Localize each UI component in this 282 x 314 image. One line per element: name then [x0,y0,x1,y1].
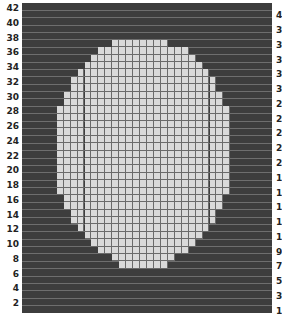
filled-stitch-cell [168,239,175,246]
filled-stitch-cell [64,165,71,172]
filled-stitch-cell [147,165,154,172]
filled-stitch-cell [105,121,112,128]
filled-stitch-cell [203,114,210,121]
filled-stitch-cell [140,188,147,195]
filled-stitch-cell [203,195,210,202]
filled-stitch-cell [57,114,64,121]
filled-stitch-cell [168,55,175,62]
filled-stitch-cell [126,158,133,165]
filled-stitch-cell [223,165,230,172]
filled-stitch-cell [175,106,182,113]
filled-stitch-cell [133,165,140,172]
filled-stitch-cell [210,173,217,180]
filled-stitch-cell [210,77,217,84]
filled-stitch-cell [168,158,175,165]
filled-stitch-cell [182,239,189,246]
filled-stitch-cell [91,92,98,99]
filled-stitch-cell [140,136,147,143]
filled-stitch-cell [98,69,105,76]
filled-stitch-cell [140,40,147,47]
filled-stitch-cell [140,165,147,172]
filled-stitch-cell [168,224,175,231]
filled-stitch-cell [133,114,140,121]
filled-stitch-cell [98,77,105,84]
filled-stitch-cell [147,128,154,135]
filled-stitch-cell [140,261,147,268]
filled-stitch-cell [126,55,133,62]
filled-stitch-cell [182,143,189,150]
left-row-label: 8 [2,254,19,264]
filled-stitch-cell [126,84,133,91]
filled-stitch-cell [168,210,175,217]
filled-stitch-cell [85,188,92,195]
filled-stitch-cell [161,247,168,254]
filled-stitch-cell [98,232,105,239]
filled-stitch-cell [105,92,112,99]
grid-row-line [22,10,272,11]
filled-stitch-cell [161,224,168,231]
filled-stitch-cell [189,92,196,99]
filled-stitch-cell [112,224,119,231]
filled-stitch-cell [210,106,217,113]
filled-stitch-cell [154,261,161,268]
filled-stitch-cell [98,224,105,231]
filled-stitch-cell [175,77,182,84]
filled-stitch-cell [161,128,168,135]
filled-stitch-cell [154,158,161,165]
filled-stitch-cell [98,114,105,121]
filled-stitch-cell [91,202,98,209]
filled-stitch-cell [196,180,203,187]
filled-stitch-cell [196,84,203,91]
filled-stitch-cell [85,77,92,84]
filled-stitch-cell [175,247,182,254]
filled-stitch-cell [147,77,154,84]
filled-stitch-cell [182,158,189,165]
filled-stitch-cell [210,195,217,202]
filled-stitch-cell [154,40,161,47]
filled-stitch-cell [105,99,112,106]
filled-stitch-cell [105,77,112,84]
filled-stitch-cell [133,40,140,47]
right-row-label: 2 [276,99,282,109]
filled-stitch-cell [112,247,119,254]
filled-stitch-cell [161,180,168,187]
filled-stitch-cell [126,224,133,231]
filled-stitch-cell [119,55,126,62]
filled-stitch-cell [140,239,147,246]
filled-stitch-cell [161,47,168,54]
filled-stitch-cell [147,210,154,217]
filled-stitch-cell [98,180,105,187]
filled-stitch-cell [98,195,105,202]
filled-stitch-cell [216,99,223,106]
filled-stitch-cell [196,143,203,150]
filled-stitch-cell [189,84,196,91]
left-row-label: 20 [2,165,19,175]
filled-stitch-cell [112,121,119,128]
filled-stitch-cell [161,143,168,150]
filled-stitch-cell [112,106,119,113]
filled-stitch-cell [105,217,112,224]
filled-stitch-cell [161,121,168,128]
filled-stitch-cell [119,99,126,106]
grid-row-line [22,276,272,277]
filled-stitch-cell [98,151,105,158]
filled-stitch-cell [140,143,147,150]
filled-stitch-cell [91,114,98,121]
filled-stitch-cell [216,195,223,202]
filled-stitch-cell [71,173,78,180]
filled-stitch-cell [175,195,182,202]
filled-stitch-cell [175,92,182,99]
right-row-label: 2 [276,128,282,138]
filled-stitch-cell [126,254,133,261]
filled-stitch-cell [210,180,217,187]
filled-stitch-cell [112,84,119,91]
filled-stitch-cell [182,47,189,54]
left-row-label: 26 [2,121,19,131]
filled-stitch-cell [175,232,182,239]
filled-stitch-cell [147,136,154,143]
filled-stitch-cell [196,217,203,224]
filled-stitch-cell [196,136,203,143]
filled-stitch-cell [57,173,64,180]
filled-stitch-cell [71,114,78,121]
filled-stitch-cell [189,195,196,202]
